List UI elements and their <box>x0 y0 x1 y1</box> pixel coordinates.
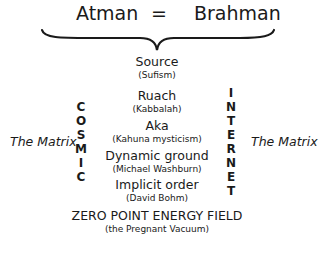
level-dynamic-ground-name: Dynamic ground <box>0 148 314 163</box>
level-dynamic-ground-origin: (Michael Washburn) <box>0 164 314 174</box>
level-aka-name: Aka <box>0 118 314 133</box>
internet-letter: T <box>225 114 237 128</box>
level-ruach-origin: (Kabbalah) <box>0 104 314 114</box>
level-ruach-name: Ruach <box>0 88 314 103</box>
level-implicit-order-name: Implicit order <box>0 177 314 192</box>
level-implicit-order-origin: (David Bohm) <box>0 193 314 203</box>
zero-point-field-name: ZERO POINT ENERGY FIELD <box>0 208 314 223</box>
internet-letter: I <box>225 86 237 100</box>
internet-letter: T <box>225 184 237 198</box>
cosmic-letter: I <box>75 156 87 170</box>
internet-letter: E <box>225 128 237 142</box>
level-source-name: Source <box>0 54 314 69</box>
cosmic-letter: C <box>75 170 87 184</box>
cosmic-letter: C <box>75 100 87 114</box>
matrix-label-right: The Matrix <box>251 134 318 149</box>
curly-brace-icon <box>0 0 326 60</box>
level-source-origin: (Sufism) <box>0 70 314 80</box>
internet-letter: N <box>225 100 237 114</box>
internet-letter: E <box>225 170 237 184</box>
cosmic-letter: O <box>75 114 87 128</box>
internet-letter: N <box>225 156 237 170</box>
zero-point-field-origin: (the Pregnant Vacuum) <box>0 224 314 234</box>
matrix-label-left: The Matrix <box>10 134 77 149</box>
internet-letter: R <box>225 142 237 156</box>
